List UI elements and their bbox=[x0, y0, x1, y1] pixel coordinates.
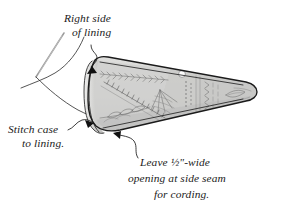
annotation-line: of lining bbox=[72, 26, 111, 38]
annotation-line: for cording. bbox=[154, 188, 209, 200]
needle-highlight bbox=[39, 36, 62, 73]
annotation-line: opening at side seam bbox=[128, 172, 226, 184]
embroidered-case bbox=[84, 57, 258, 134]
bead-accent bbox=[179, 71, 186, 78]
annotation-leave-opening-for-cording: Leave ½"-wide opening at side seam for c… bbox=[128, 156, 226, 200]
thread-curve bbox=[21, 37, 84, 88]
annotation-right-side-of-lining: Right side of lining bbox=[63, 12, 111, 38]
case-shading bbox=[92, 60, 258, 133]
annotation-line: Stitch case bbox=[8, 123, 58, 135]
annotation-line: Leave ½"-wide bbox=[139, 156, 210, 168]
annotation-stitch-case-to-lining: Stitch case to lining. bbox=[8, 123, 64, 149]
bead-highlight bbox=[180, 72, 182, 74]
annotation-line: Right side bbox=[63, 12, 111, 24]
arrowhead-leave-opening bbox=[113, 131, 121, 139]
diagram-canvas: Right side of lining Stitch case to lini… bbox=[0, 0, 282, 213]
sewing-diagram: Right side of lining Stitch case to lini… bbox=[0, 0, 282, 213]
annotation-line: to lining. bbox=[22, 137, 64, 149]
